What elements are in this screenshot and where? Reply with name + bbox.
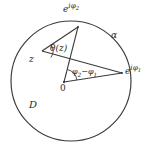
label-exponent-index-right: 1 [138, 67, 141, 73]
label-exponent-index-upper: 2 [76, 5, 79, 11]
label-boundary-point-upper: eiφ2 [63, 2, 79, 14]
label-arc-alpha: α [111, 31, 117, 40]
label-exponent-upper: iφ2 [68, 1, 79, 10]
vertex-dot-boundary-point-upper [77, 26, 79, 28]
label-boundary-point-right: eiφ1 [125, 64, 141, 76]
label-inscribed-angle-theta: θ(z) [50, 44, 67, 53]
figure-container: eiφ2 eiφ1 α θ(z) z φ2−φ1 0 D [0, 0, 160, 154]
label-exponent-right: iφ1 [130, 63, 141, 72]
label-central-minus: − [81, 67, 88, 76]
vertex-dot-boundary-point-right [121, 72, 123, 74]
label-interior-point-z: z [29, 55, 34, 64]
label-central-angle: φ2−φ1 [72, 68, 97, 78]
label-domain-D: D [29, 100, 37, 110]
label-central-index-1: 1 [94, 72, 98, 78]
label-origin: 0 [60, 84, 66, 93]
